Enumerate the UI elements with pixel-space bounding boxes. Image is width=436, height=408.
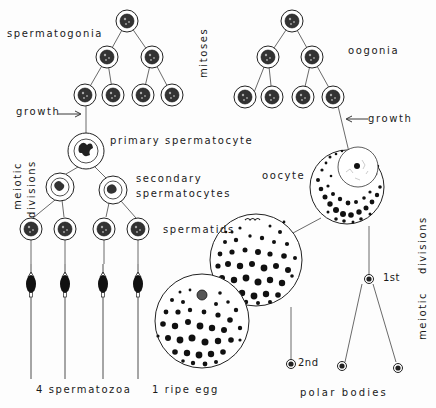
label-second-polar: 2nd (298, 357, 319, 368)
label-meiotic-male: meiotic (12, 162, 23, 210)
primary-spermatocyte (68, 133, 104, 169)
label-mitoses: mitoses (198, 28, 209, 78)
label-spermatids: spermatids (163, 224, 235, 235)
label-primary-spermatocyte: primary spermatocyte (110, 135, 253, 146)
label-spermatogonia: spermatogonia (7, 28, 103, 39)
label-meiotic-female: meiotic (417, 292, 428, 340)
label-spermatocytes: spermatocytes (136, 188, 231, 199)
growth-arrow-male (58, 111, 81, 117)
label-growth-male: growth (16, 106, 60, 117)
label-polar-bodies: polar bodies (300, 387, 388, 398)
label-divisions-female: divisions (417, 216, 428, 274)
label-first-polar: 1st (383, 272, 400, 283)
secondary-spermatocytes (46, 173, 127, 204)
growth-arrow-female (346, 116, 368, 122)
label-oogonia: oogonia (348, 45, 399, 56)
label-secondary: secondary (136, 173, 202, 184)
ripe-egg (155, 274, 249, 368)
label-growth-female: growth (368, 113, 412, 124)
diagram-graphics (0, 0, 436, 408)
label-ripe-egg: 1 ripe egg (152, 384, 219, 395)
label-divisions-male: divisions (26, 160, 37, 218)
oocyte (310, 147, 384, 224)
spermatozoa (26, 264, 143, 379)
label-oocyte: oocyte (262, 170, 305, 181)
gametogenesis-diagram: spermatogonia growth primary spermatocyt… (0, 0, 436, 408)
label-4-spermatozoa: 4 spermatozoa (36, 384, 131, 395)
